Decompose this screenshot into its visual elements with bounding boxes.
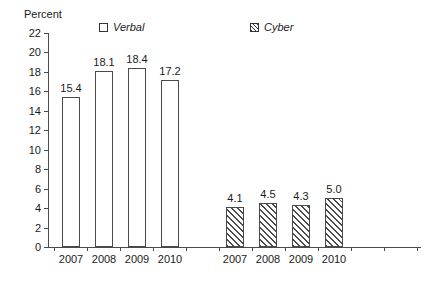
bar-verbal-2009 (128, 68, 146, 247)
bar-verbal-2007 (62, 97, 80, 247)
y-axis-tick-label: 20 (29, 47, 41, 58)
legend-label-cyber: Cyber (264, 21, 293, 33)
x-axis-tick (351, 247, 352, 251)
x-axis-tick (219, 247, 220, 251)
x-axis-label-cyber-2007: 2007 (223, 254, 247, 265)
x-axis-tick (87, 247, 88, 251)
bar-verbal-2008 (95, 71, 113, 247)
x-axis-line (48, 247, 421, 248)
legend-item-cyber: Cyber (250, 21, 293, 33)
bar-value-label: 15.4 (60, 83, 81, 94)
x-axis-label-cyber-2008: 2008 (256, 254, 280, 265)
x-axis-tick (252, 247, 253, 251)
y-axis-tick-label: 16 (29, 86, 41, 97)
legend-label-verbal: Verbal (113, 21, 144, 33)
legend-item-verbal: Verbal (99, 21, 144, 33)
legend-swatch-hatched-square-icon (250, 23, 259, 32)
x-axis-tick (54, 247, 55, 251)
y-axis-tick-label: 14 (29, 105, 41, 116)
x-axis-tick (384, 247, 385, 251)
plot-area: 0246810121416182022 15.418.118.417.24.14… (48, 33, 421, 247)
y-axis-tick-label: 6 (35, 183, 41, 194)
bar-value-label: 4.5 (260, 189, 275, 200)
y-axis-title: Percent (24, 8, 62, 20)
bar-value-label: 5.0 (326, 184, 341, 195)
y-axis-tick-label: 12 (29, 125, 41, 136)
x-axis-label-verbal-2007: 2007 (59, 254, 83, 265)
x-axis-label-cyber-2009: 2009 (289, 254, 313, 265)
bar-value-label: 18.4 (126, 54, 147, 65)
bar-value-label: 4.3 (293, 191, 308, 202)
x-axis-tick (285, 247, 286, 251)
bar-cyber-2009 (292, 205, 310, 247)
bar-value-label: 4.1 (227, 193, 242, 204)
bar-value-label: 18.1 (93, 57, 114, 68)
y-axis-tick-label: 8 (35, 164, 41, 175)
y-axis-tick-label: 0 (35, 242, 41, 253)
x-axis-tick (186, 247, 187, 251)
x-axis-tick (318, 247, 319, 251)
y-axis-tick-label: 10 (29, 144, 41, 155)
x-axis-label-verbal-2009: 2009 (125, 254, 149, 265)
x-axis-tick (120, 247, 121, 251)
bar-verbal-2010 (161, 80, 179, 247)
bar-value-label: 17.2 (159, 66, 180, 77)
y-axis-tick (44, 247, 48, 248)
x-axis-label-verbal-2010: 2010 (158, 254, 182, 265)
bar-cyber-2008 (259, 203, 277, 247)
y-axis-tick-label: 4 (35, 203, 41, 214)
x-axis-tick (153, 247, 154, 251)
y-axis-tick-label: 18 (29, 66, 41, 77)
x-axis-tick (417, 247, 418, 251)
y-axis-tick-label: 22 (29, 28, 41, 39)
bar-cyber-2010 (325, 198, 343, 247)
y-axis-tick-label: 2 (35, 222, 41, 233)
legend-swatch-open-square-icon (99, 23, 108, 32)
x-axis-label-verbal-2008: 2008 (92, 254, 116, 265)
bar-chart: Percent Verbal Cyber 0246810121416182022… (0, 0, 427, 281)
bar-cyber-2007 (226, 207, 244, 247)
bars-layer: 15.418.118.417.24.14.54.35.0 (48, 33, 421, 247)
x-axis-label-cyber-2010: 2010 (322, 254, 346, 265)
